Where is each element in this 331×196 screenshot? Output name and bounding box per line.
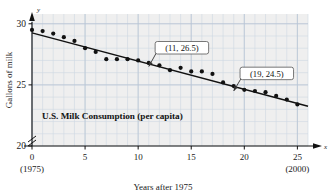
x-tick-sublabels: (1975)(2000) <box>20 164 309 174</box>
callout-label: (19, 24.5) <box>250 69 284 79</box>
data-point <box>115 57 119 61</box>
data-point <box>221 80 225 84</box>
data-point <box>136 58 140 62</box>
x-axis-label: Years after 1975 <box>133 182 193 192</box>
x-tick-labels: 0510152025 <box>30 152 303 162</box>
data-point <box>253 89 257 93</box>
x-tick-sublabel: (2000) <box>285 164 309 174</box>
data-point <box>41 29 45 33</box>
data-point <box>157 63 161 67</box>
y-tick-labels: 202530 <box>17 19 27 151</box>
chart-figure: y x 0510152025 (1975)(2000) 202530 (11, … <box>0 0 331 196</box>
data-point <box>189 69 193 73</box>
x-tick-label: 15 <box>187 152 197 162</box>
data-point <box>104 57 108 61</box>
data-point <box>83 46 87 50</box>
data-point <box>295 102 299 106</box>
x-tick-label: 10 <box>134 152 144 162</box>
data-point <box>274 94 278 98</box>
x-tick-label: 5 <box>83 152 88 162</box>
data-point <box>179 66 183 70</box>
y-tick-label: 20 <box>17 141 27 151</box>
x-tick-sublabel: (1975) <box>20 164 44 174</box>
chart-title: U.S. Milk Consumption (per capita) <box>42 111 183 121</box>
milk-consumption-scatter-chart: y x 0510152025 (1975)(2000) 202530 (11, … <box>0 0 331 196</box>
data-point <box>72 39 76 43</box>
data-point <box>62 35 66 39</box>
data-point <box>51 31 55 35</box>
x-tick-label: 0 <box>30 152 35 162</box>
x-tick-label: 20 <box>240 152 250 162</box>
data-point <box>168 68 172 72</box>
x-axis-symbol: x <box>323 143 328 151</box>
data-point <box>200 69 204 73</box>
data-point <box>242 88 246 92</box>
data-point <box>263 90 267 94</box>
callout-label: (11, 26.5) <box>165 43 198 53</box>
data-point <box>125 57 129 61</box>
data-point <box>285 97 289 101</box>
y-tick-label: 25 <box>17 80 27 90</box>
x-tick-label: 25 <box>293 152 303 162</box>
y-axis-label: Gallons of milk <box>4 51 14 108</box>
data-point <box>210 72 214 76</box>
data-point <box>30 28 34 32</box>
data-point <box>94 50 98 54</box>
y-tick-label: 30 <box>17 19 27 29</box>
y-axis-symbol: y <box>36 6 41 14</box>
